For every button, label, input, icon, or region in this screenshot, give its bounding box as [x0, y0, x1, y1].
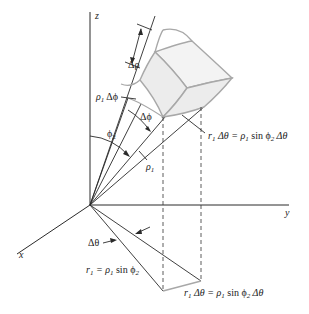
delta-phi-arrow: [145, 126, 151, 132]
phi2-arc-group: ϕ2: [90, 128, 130, 157]
box-back-top: [163, 29, 192, 41]
rho1-delta-phi-label-group: ρ1 Δϕ: [95, 91, 136, 104]
delta-theta-arrow: [110, 238, 117, 243]
delta-theta-arrow-2: [135, 229, 142, 234]
upper-arc-leader: [182, 115, 205, 133]
rho1-tick: [139, 151, 147, 160]
rho1-label-group: ρ1: [139, 151, 154, 174]
delta-phi-arc-group: Δϕ: [128, 110, 152, 132]
delta-rho-tick-top: [137, 24, 152, 30]
upper-arc-length-label: r1 Δθ = ρ1 sin ϕ2 Δθ: [208, 130, 287, 143]
box-inner-arc-2: [121, 80, 140, 85]
lower-arc-length-label: r1 Δθ = ρ1 sin ϕ2 Δθ: [184, 287, 263, 300]
delta-theta-group: Δθ: [88, 227, 150, 248]
y-axis-label: y: [284, 207, 290, 218]
delta-rho-label: Δρ: [128, 59, 139, 70]
rho1-delta-phi-label: ρ1 Δϕ: [95, 91, 118, 104]
r1-equation-label: r1 = ρ1 sin ϕ2: [86, 264, 139, 277]
upper-arc-length-label-group: r1 Δθ = ρ1 sin ϕ2 Δθ: [182, 115, 287, 143]
x-axis: [17, 205, 90, 254]
box-back-arc: [155, 30, 163, 52]
delta-theta-label: Δθ: [88, 237, 99, 248]
z-axis-label: z: [94, 10, 99, 21]
phi2-label: ϕ2: [107, 128, 116, 141]
projection-lines: [163, 107, 201, 291]
rho1-label: ρ1: [145, 161, 154, 174]
delta-phi-label: Δϕ: [140, 111, 152, 122]
x-axis-label: x: [18, 249, 24, 260]
delta-rho-arrow-top: [138, 28, 143, 35]
xy-plane-projection: [90, 205, 201, 291]
spherical-volume-element-diagram: z y x Δρ: [0, 0, 309, 314]
